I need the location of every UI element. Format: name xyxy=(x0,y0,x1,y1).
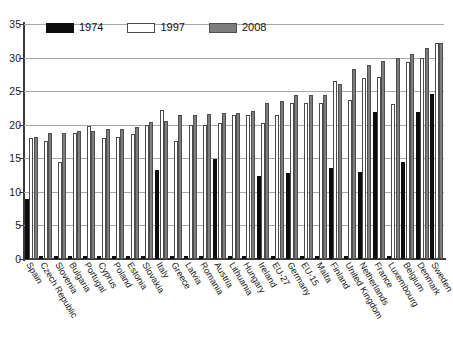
bar-2008 xyxy=(381,61,385,259)
bar-2008 xyxy=(439,43,443,259)
y-axis-tick-label: 35 xyxy=(0,19,21,30)
bar-group xyxy=(154,24,168,259)
plot-area xyxy=(24,24,444,259)
bar-group xyxy=(314,24,328,259)
bar-group xyxy=(212,24,226,259)
bar-2008 xyxy=(77,131,81,259)
bar-2008 xyxy=(352,69,356,259)
bar-group xyxy=(299,24,313,259)
bar-chart: 05101520253035 1974 1997 2008 SpainCzech… xyxy=(0,0,453,341)
bar-group xyxy=(328,24,342,259)
legend-label-2008: 2008 xyxy=(242,22,266,33)
bar-group xyxy=(140,24,154,259)
legend-item-2008: 2008 xyxy=(209,22,266,33)
y-axis-tick-label: 10 xyxy=(0,187,21,198)
bar-2008 xyxy=(338,84,342,259)
bar-2008 xyxy=(149,122,153,259)
bar-2008 xyxy=(106,129,110,259)
bar-group xyxy=(183,24,197,259)
bar-2008 xyxy=(34,137,38,259)
bar-2008 xyxy=(367,65,371,259)
x-axis-labels: SpainCzech RepublicSloveniaBulgariaPortu… xyxy=(24,261,444,341)
bar-2008 xyxy=(62,133,66,259)
chart-legend: 1974 1997 2008 xyxy=(46,22,266,33)
legend-swatch-1974 xyxy=(46,23,74,33)
y-axis-tick-label: 15 xyxy=(0,153,21,164)
bar-group xyxy=(343,24,357,259)
bar-group xyxy=(285,24,299,259)
bar-2008 xyxy=(193,115,197,259)
bar-group xyxy=(38,24,52,259)
bar-2008 xyxy=(425,48,429,260)
bar-2008 xyxy=(164,121,168,259)
bar-groups xyxy=(24,24,444,259)
bar-group xyxy=(67,24,81,259)
bar-group xyxy=(401,24,415,259)
bar-group xyxy=(430,24,444,259)
bar-group xyxy=(241,24,255,259)
bar-2008 xyxy=(48,133,52,259)
y-axis-tick-label: 5 xyxy=(0,220,21,231)
bar-group xyxy=(372,24,386,259)
bar-group xyxy=(24,24,38,259)
bar-group xyxy=(227,24,241,259)
legend-item-1974: 1974 xyxy=(46,22,103,33)
bar-2008 xyxy=(236,113,240,259)
bar-group xyxy=(357,24,371,259)
bar-2008 xyxy=(323,95,327,260)
legend-label-1997: 1997 xyxy=(160,22,184,33)
bar-group xyxy=(96,24,110,259)
bar-2008 xyxy=(251,111,255,259)
bar-group xyxy=(125,24,139,259)
bar-2008 xyxy=(91,131,95,259)
bar-group xyxy=(386,24,400,259)
legend-item-1997: 1997 xyxy=(127,22,184,33)
bar-group xyxy=(415,24,429,259)
bar-2008 xyxy=(222,113,226,259)
y-axis-tick-label: 0 xyxy=(0,254,21,265)
bar-group xyxy=(53,24,67,259)
bar-group xyxy=(169,24,183,259)
bar-2008 xyxy=(207,114,211,259)
bar-2008 xyxy=(280,101,284,259)
legend-swatch-2008 xyxy=(209,23,237,33)
bar-group xyxy=(82,24,96,259)
bar-2008 xyxy=(135,127,139,259)
bar-2008 xyxy=(120,129,124,259)
legend-swatch-1997 xyxy=(127,23,155,33)
bar-2008 xyxy=(178,115,182,259)
bar-2008 xyxy=(294,95,298,260)
bar-2008 xyxy=(396,58,400,259)
y-axis-tick-label: 20 xyxy=(0,120,21,131)
bar-2008 xyxy=(309,95,313,260)
bar-group xyxy=(270,24,284,259)
y-axis-tick-label: 25 xyxy=(0,86,21,97)
y-axis-tick-mark xyxy=(19,259,24,260)
bar-2008 xyxy=(410,54,414,259)
bar-group xyxy=(256,24,270,259)
bar-group xyxy=(111,24,125,259)
y-axis-tick-label: 30 xyxy=(0,53,21,64)
legend-label-1974: 1974 xyxy=(79,22,103,33)
bar-group xyxy=(198,24,212,259)
bar-2008 xyxy=(265,103,269,259)
